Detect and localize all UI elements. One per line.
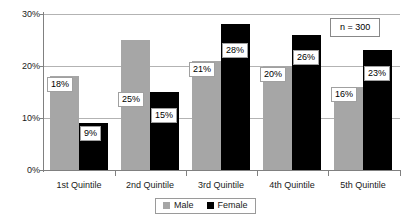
data-label-female-2nd-quintile: 15% xyxy=(151,108,177,123)
x-axis-line xyxy=(43,170,401,171)
data-label-female-5th-quintile: 23% xyxy=(364,66,390,81)
legend-entry-female[interactable]: Female xyxy=(207,201,248,210)
x-tick-mark-1 xyxy=(115,171,116,176)
data-label-male-1st-quintile: 18% xyxy=(47,77,73,92)
legend-label-female: Female xyxy=(218,201,248,210)
bar-chart: 30% 20% 10% 0% 18% 9% 25% 15% xyxy=(0,0,413,221)
x-tick-mark-2 xyxy=(186,171,187,176)
bar-male-3rd-quintile[interactable] xyxy=(192,61,221,170)
data-label-male-4th-quintile: 20% xyxy=(260,67,286,82)
x-tick-mark-5 xyxy=(400,171,401,176)
y-tick-label-20: 20% xyxy=(6,62,40,71)
y-tick-label-10: 10% xyxy=(6,114,40,123)
data-label-female-1st-quintile: 9% xyxy=(80,126,101,141)
x-tick-mark-3 xyxy=(257,171,258,176)
legend-entry-male[interactable]: Male xyxy=(163,201,194,210)
legend: Male Female xyxy=(155,198,256,214)
legend-swatch-female-icon xyxy=(207,202,214,209)
x-tick-label-5th-quintile: 5th Quintile xyxy=(318,180,408,190)
legend-label-male: Male xyxy=(174,201,194,210)
sample-size-annotation: n = 300 xyxy=(330,18,380,37)
y-tick-label-0: 0% xyxy=(6,166,40,175)
data-label-female-3rd-quintile: 28% xyxy=(222,43,248,58)
data-label-male-3rd-quintile: 21% xyxy=(189,62,215,77)
data-label-male-5th-quintile: 16% xyxy=(331,87,357,102)
y-tick-label-30: 30% xyxy=(6,10,40,19)
data-label-male-2nd-quintile: 25% xyxy=(118,92,144,107)
legend-swatch-male-icon xyxy=(163,202,170,209)
plot-area: 18% 9% 25% 15% 21% 28% 20% 26% 1 xyxy=(44,14,400,170)
gridline-30 xyxy=(44,14,400,15)
data-label-female-4th-quintile: 26% xyxy=(293,50,319,65)
x-tick-mark-4 xyxy=(328,171,329,176)
bar-female-2nd-quintile[interactable] xyxy=(150,92,179,170)
